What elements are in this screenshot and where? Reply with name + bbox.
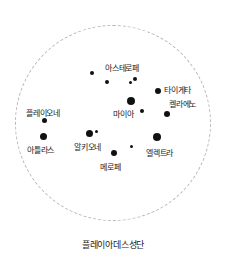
star-dot (133, 77, 137, 81)
star-label: 아스테로페 (105, 64, 139, 73)
faint-star-dot (105, 80, 109, 84)
star-label: 엘렉트라 (146, 149, 173, 158)
faint-star-dot (90, 71, 94, 75)
star-dot (164, 111, 170, 117)
star-dot (111, 150, 117, 156)
star-dot (42, 118, 47, 123)
star-dot (40, 133, 47, 140)
star-label: 마이아 (113, 110, 133, 119)
star-dot (127, 97, 135, 105)
star-label: 메로페 (100, 163, 120, 172)
pleiades-figure: 아스테로페타이게타켈라에노플레이오네아틀라스알키오네마이아메로페엘렉트라 플레이… (0, 0, 226, 266)
star-dot (155, 88, 161, 94)
star-label: 알키오네 (74, 143, 101, 152)
faint-star-dot (95, 130, 98, 133)
figure-caption: 플레이아데스성단 (0, 240, 226, 251)
cluster-boundary-circle (15, 25, 211, 221)
star-label: 아틀라스 (27, 146, 54, 155)
star-label: 플레이오네 (26, 109, 60, 118)
star-field: 아스테로페타이게타켈라에노플레이오네아틀라스알키오네마이아메로페엘렉트라 (0, 0, 226, 236)
faint-star-dot (129, 81, 132, 84)
star-dot (86, 130, 93, 137)
star-label: 타이게타 (164, 86, 191, 95)
faint-star-dot (130, 145, 133, 148)
faint-star-dot (140, 109, 144, 113)
star-dot (153, 133, 161, 141)
star-label: 켈라에노 (169, 100, 196, 109)
